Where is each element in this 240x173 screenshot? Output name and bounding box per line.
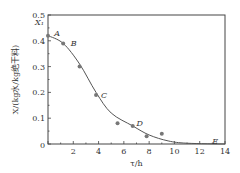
data-point <box>61 41 65 45</box>
x-tick-label: 6 <box>121 147 126 156</box>
annotation-x1: X₁ <box>34 18 44 27</box>
x-axis-label: τ/h <box>130 159 142 168</box>
data-point <box>78 65 82 69</box>
x-tick-label: 4 <box>96 147 101 156</box>
annotation-a: A <box>53 29 60 38</box>
data-point <box>46 34 50 38</box>
annotation-c: C <box>101 91 107 100</box>
drying-curve-chart: 246810121400.10.20.30.40.5τ/hX/(kg水/kg绝干… <box>0 0 240 173</box>
x-tick-label: 2 <box>71 147 76 156</box>
y-tick-label: 0.3 <box>32 63 45 72</box>
x-tick-label: 14 <box>220 147 230 156</box>
x-tick-label: 12 <box>195 147 205 156</box>
annotation-b: B <box>70 39 77 48</box>
x-tick-label: 10 <box>169 147 179 156</box>
annotation-e: E <box>211 137 218 146</box>
data-point <box>145 134 149 138</box>
y-axis-label: X/(kg水/kg绝干料) <box>10 45 20 114</box>
data-point <box>116 121 120 125</box>
y-tick-label: 0.2 <box>32 88 45 97</box>
y-tick-label: 0.4 <box>32 37 45 46</box>
svg-text:0: 0 <box>40 141 45 150</box>
x-tick-label: 8 <box>147 147 152 156</box>
data-point <box>94 93 98 97</box>
annotation-d: D <box>136 119 144 128</box>
data-point <box>131 124 135 128</box>
data-point <box>160 132 164 136</box>
y-tick-label: 0.1 <box>32 114 45 123</box>
